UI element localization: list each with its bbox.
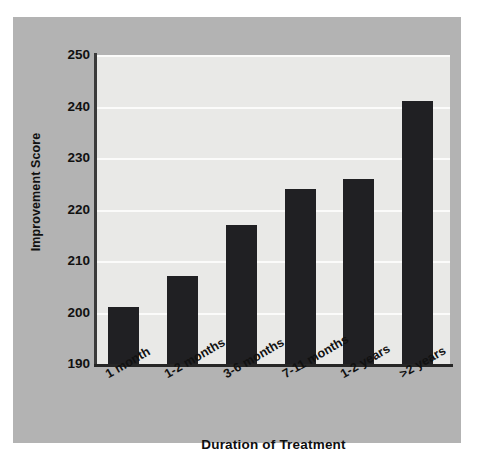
bar[interactable] (285, 189, 316, 364)
y-axis-tick-label: 240 (46, 100, 90, 114)
y-axis-tick-label: 190 (46, 357, 90, 371)
y-axis-title: Improvement Score (29, 122, 43, 262)
plot-area (97, 55, 450, 364)
x-axis-title: Duration of Treatment (97, 437, 450, 452)
y-axis-tick-labels: 190200210220230240250 (42, 17, 90, 459)
bar[interactable] (402, 101, 433, 364)
bar-chart-figure: Improvement Score 190200210220230240250 … (0, 0, 481, 459)
y-axis-tick-label: 220 (46, 203, 90, 217)
gridline (97, 107, 450, 109)
gridline (97, 210, 450, 212)
chart-panel: Improvement Score 190200210220230240250 … (13, 17, 461, 443)
y-axis-tick-label: 230 (46, 151, 90, 165)
gridline (97, 261, 450, 263)
bar[interactable] (226, 225, 257, 364)
y-axis-line (94, 53, 97, 366)
gridline (97, 313, 450, 315)
y-axis-tick-label: 250 (46, 48, 90, 62)
bar[interactable] (343, 179, 374, 364)
y-axis-tick-label: 200 (46, 306, 90, 320)
y-axis-tick-label: 210 (46, 254, 90, 268)
gridline (97, 158, 450, 160)
x-axis-tick-labels: 1 month1-2 months3-6 months7-11 months1-… (97, 369, 450, 429)
gridline (97, 55, 450, 57)
